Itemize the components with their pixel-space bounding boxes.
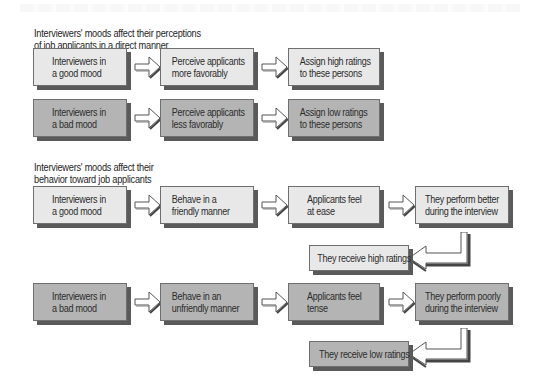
step-text-line2: to these persons <box>300 119 370 131</box>
bleed-through-text <box>20 4 520 12</box>
step-text-line1: Perceive applicants <box>172 56 244 68</box>
right-arrow-icon <box>386 192 418 218</box>
outcome-text: They receive low ratings <box>319 349 410 360</box>
step-text-line2: a bad mood <box>52 119 117 131</box>
step-text-line1: Behave in an <box>172 291 244 303</box>
step-text-line1: They perform poorly <box>425 291 499 303</box>
step-text-line1: Assign low ratings <box>300 107 370 119</box>
s1-bad-step-1: Interviewers ina bad mood <box>33 99 127 137</box>
s2-bad-step-4: They perform poorlyduring the interview <box>415 283 509 321</box>
step-text-line1: They perform better <box>425 194 499 206</box>
s2-good-step-4: They perform betterduring the interview <box>415 186 509 224</box>
step-text-line1: Assign high ratings <box>300 56 370 68</box>
s2-good-step-1: Interviewers ina good mood <box>33 186 127 224</box>
right-arrow-icon <box>386 289 418 315</box>
section2-title: Interviewers' moods affect their behavio… <box>34 162 273 186</box>
s1-bad-step-2: Perceive applicantsless favorably <box>160 99 254 137</box>
right-arrow-icon <box>259 54 291 80</box>
step-text-line1: Applicants feel <box>307 291 370 303</box>
step-text-line2: more favorably <box>172 68 244 80</box>
s2-good-step-2: Behave in afriendly manner <box>160 186 254 224</box>
right-arrow-icon <box>259 192 291 218</box>
step-text-line2: during the interview <box>425 206 499 218</box>
section2-title-line1: Interviewers' moods affect their <box>34 162 273 174</box>
right-arrow-icon <box>259 289 291 315</box>
s1-bad-step-3: Assign low ratingsto these persons <box>288 99 380 137</box>
step-text-line2: tense <box>307 303 370 315</box>
step-text-line1: Interviewers in <box>52 194 117 206</box>
section2-title-line2: behavior toward job applicants <box>34 174 273 186</box>
s2-bad-step-1: Interviewers ina bad mood <box>33 283 127 321</box>
step-text-line1: Perceive applicants <box>172 107 244 119</box>
s1-good-step-1: Interviewers ina good mood <box>33 48 127 86</box>
right-arrow-icon <box>259 105 291 131</box>
outcome-text: They receive high ratings <box>317 253 411 264</box>
step-text-line2: a bad mood <box>52 303 117 315</box>
step-text-line1: Interviewers in <box>52 107 117 119</box>
section1-title-line1: Interviewers' moods affect their percept… <box>34 28 273 40</box>
s2-good-outcome: They receive high ratings <box>309 245 409 271</box>
s1-good-step-3: Assign high ratingsto these persons <box>288 48 380 86</box>
step-text-line2: at ease <box>307 206 370 218</box>
s2-bad-step-2: Behave in anunfriendly manner <box>160 283 254 321</box>
s1-good-step-2: Perceive applicantsmore favorably <box>160 48 254 86</box>
step-text-line2: unfriendly manner <box>172 303 244 315</box>
step-text-line1: Interviewers in <box>52 56 117 68</box>
step-text-line1: Applicants feel <box>307 194 370 206</box>
bent-left-arrow-icon <box>406 232 476 277</box>
step-text-line2: a good mood <box>52 68 117 80</box>
step-text-line2: to these persons <box>300 68 370 80</box>
step-text-line2: friendly manner <box>172 206 244 218</box>
step-text-line1: Interviewers in <box>52 291 117 303</box>
step-text-line2: during the interview <box>425 303 499 315</box>
step-text-line2: less favorably <box>172 119 244 131</box>
s2-bad-outcome: They receive low ratings <box>309 341 409 367</box>
step-text-line2: a good mood <box>52 206 117 218</box>
bent-left-arrow-icon <box>406 328 476 373</box>
s2-bad-step-3: Applicants feeltense <box>288 283 380 321</box>
s2-good-step-3: Applicants feelat ease <box>288 186 380 224</box>
step-text-line1: Behave in a <box>172 194 244 206</box>
